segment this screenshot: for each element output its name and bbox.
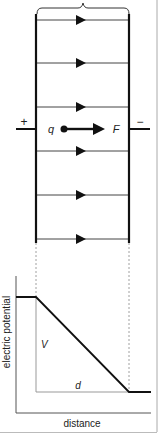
force-label: F: [113, 123, 121, 135]
x-axis-label: distance: [63, 418, 101, 429]
electric-field-diagram: + − q F V d electric potential distance: [0, 0, 163, 434]
y-axis-label: electric potential: [1, 296, 12, 368]
field-arrow-icon: [76, 102, 86, 112]
distance-d-label: d: [75, 380, 81, 391]
force-arrow-icon: [93, 123, 105, 135]
field-arrow-icon: [76, 146, 86, 156]
field-arrow-icon: [76, 190, 86, 200]
distance-brace: [37, 3, 129, 14]
voltage-label: V: [41, 339, 49, 350]
field-arrow-icon: [76, 15, 86, 25]
negative-sign: −: [136, 115, 143, 129]
field-arrow-icon: [76, 58, 86, 68]
charge-label: q: [48, 123, 55, 135]
field-arrow-icon: [76, 234, 86, 244]
positive-sign: +: [20, 115, 27, 129]
